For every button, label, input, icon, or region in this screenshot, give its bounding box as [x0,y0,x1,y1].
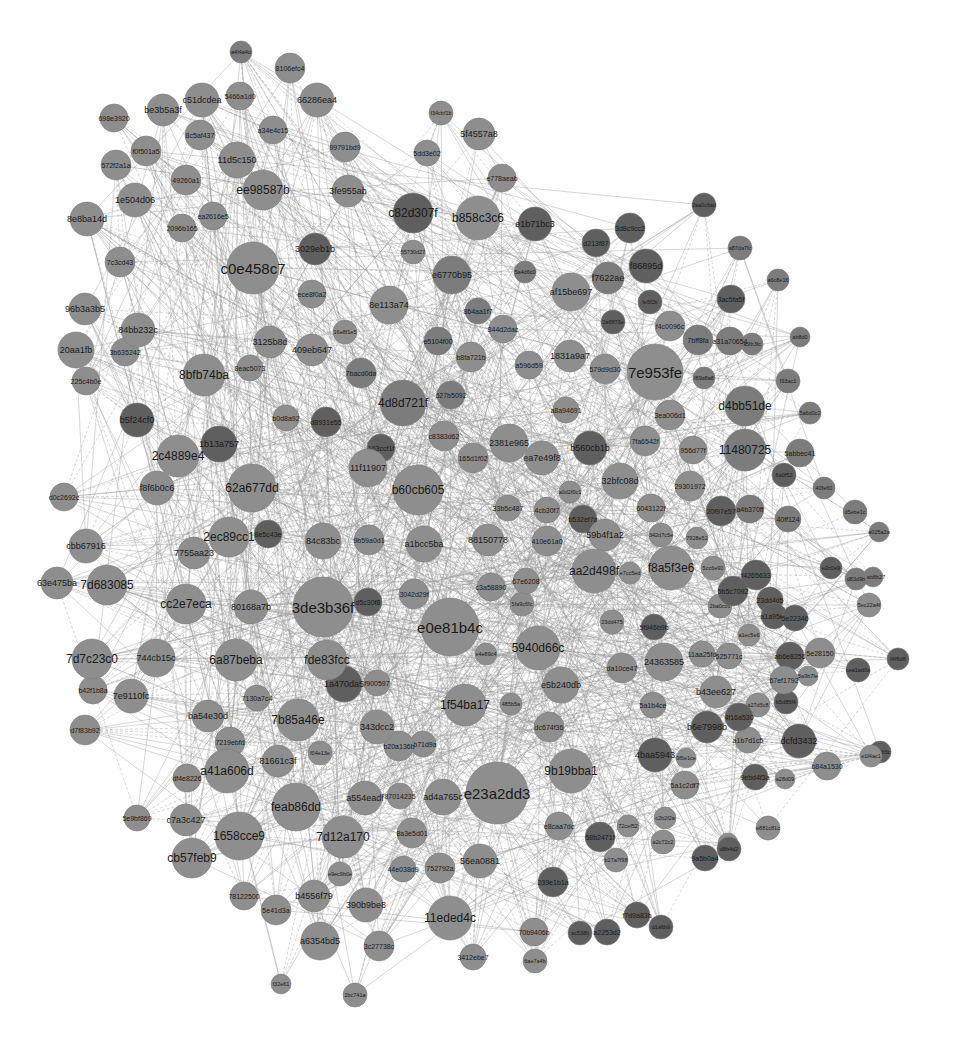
graph-node[interactable]: 55730d27 [401,240,425,264]
graph-node[interactable]: 5a1c2df7 [671,771,700,799]
graph-node[interactable]: a4b370ff [736,495,764,523]
graph-node[interactable]: f7622ae [592,262,625,294]
graph-node[interactable]: df4e8226 [172,764,201,792]
graph-node[interactable]: 1e504d06 [115,183,155,217]
graph-node[interactable]: 23dd475 [600,610,624,634]
graph-node[interactable]: cb57feb9 [167,838,217,878]
graph-node[interactable]: 11eded4c [424,896,476,940]
graph-node[interactable]: 5a1b4ce [640,692,667,718]
graph-node[interactable]: d1a6b9 [649,915,673,939]
graph-node[interactable]: e2c0e9 [820,557,842,579]
graph-node[interactable]: a1ec5e6 [738,624,760,646]
graph-node[interactable]: 8106efc4 [275,53,305,83]
graph-node[interactable]: 579d9d30 [589,354,620,384]
graph-node[interactable]: 9f5e1ce [676,748,696,768]
graph-node[interactable]: 5e9bf869 [122,805,151,831]
graph-node[interactable]: 7928e52 [686,527,708,549]
graph-node[interactable]: 5e22346 [781,605,808,631]
graph-node[interactable]: f86895d [629,249,663,283]
graph-node[interactable]: e5104f00 [423,327,452,355]
graph-node[interactable]: 3412ebe7 [457,944,488,970]
graph-node[interactable]: 7e9110fc [113,679,150,713]
graph-node[interactable]: be3b5a3f [144,94,182,126]
graph-node[interactable]: 343dcc2 [360,710,394,744]
graph-node[interactable]: a34e4c15 [258,116,289,144]
graph-node[interactable]: 5f4557a8 [460,118,498,150]
graph-node[interactable]: fe5f2b [638,290,662,314]
graph-node[interactable]: 8e5c43e [254,520,282,548]
graph-node[interactable]: 6a0f52 [772,463,796,487]
graph-node[interactable]: 7bff8fa [683,325,713,355]
graph-node[interactable]: 572f2a1a [101,150,131,180]
graph-node[interactable]: 5466a1d0 [224,82,255,110]
graph-node[interactable]: f04e13e [308,741,332,765]
graph-node[interactable]: 8e8ba14d [67,202,107,236]
graph-node[interactable]: 2aa0c6ad [692,193,716,217]
graph-node[interactable]: 2af0f73e [601,310,625,334]
graph-node[interactable]: b27a7f98 [604,848,628,872]
graph-node[interactable]: 96b3a3b5 [65,293,105,325]
graph-node[interactable]: a2c72c2 [651,830,675,854]
graph-node[interactable]: f34cbf1b [429,101,453,125]
graph-node[interactable]: b5f24cf0 [120,403,155,437]
graph-node[interactable]: cbb67916 [66,529,106,563]
graph-node[interactable]: 70b9406b [518,918,549,946]
graph-node[interactable]: 5b5c7092 [718,576,749,606]
graph-node[interactable]: 485b5a [500,693,522,715]
graph-node[interactable]: 5cc6e90 [701,556,725,580]
graph-node[interactable]: 67ef1792 [769,666,798,694]
graph-node[interactable]: d5ebe1c [843,500,867,524]
graph-node[interactable]: 72cef52 [617,815,639,837]
graph-node[interactable]: f8f6b0c6 [140,471,175,505]
graph-node[interactable]: 49260a1 [171,165,201,195]
graph-node[interactable]: 3042d29f [399,579,429,609]
graph-node[interactable]: c2b2f2a [654,807,676,829]
graph-node[interactable]: 99791bd9 [329,132,360,162]
graph-node[interactable]: 66286ea4 [297,83,337,117]
graph-node[interactable]: f89a8a8 [693,367,715,389]
graph-node[interactable]: 3c27738c [364,931,395,961]
graph-node[interactable]: 5a9b7fe [798,666,818,686]
graph-node[interactable]: 5dd3e02 [413,140,440,166]
graph-node[interactable]: a6354bd5 [300,922,340,960]
graph-node[interactable]: 16e8f1e5 [333,320,357,344]
graph-node[interactable]: c8383d62 [429,421,460,451]
graph-node[interactable]: 7bacd0da [346,358,377,388]
graph-node[interactable]: dc674f36 [534,712,564,742]
graph-node[interactable]: f32e61 [271,974,291,994]
graph-node[interactable]: 7e953fe [627,344,683,400]
graph-node[interactable]: 8e113a74 [369,286,408,324]
graph-node[interactable]: 410e61a0 [531,526,562,556]
graph-node[interactable]: 6ae7a4b [523,949,547,973]
graph-node[interactable]: d213f87 [582,229,610,257]
graph-node[interactable]: a4f4a4d [230,41,252,63]
graph-node[interactable]: e4e89c4 [475,643,497,665]
graph-node[interactable]: a2253d2 [593,919,620,945]
graph-node[interactable]: e881c81c [756,816,780,840]
graph-node[interactable]: a31a70654 [712,327,747,355]
graph-node[interactable]: f93ac1 [776,369,800,393]
graph-node[interactable]: 40ff124 [775,506,801,532]
graph-node[interactable]: 29301972 [674,471,705,501]
graph-node[interactable]: 9ebd4f3a [740,764,769,790]
graph-node[interactable]: 7c3cd43 [105,247,135,277]
graph-node[interactable]: 9b59a0d1 [353,525,384,555]
graph-node[interactable]: f4c0096c [655,311,685,341]
graph-node[interactable]: 5e41d3a [261,895,291,925]
graph-node[interactable]: e9ec9b0e [328,862,352,886]
graph-node[interactable]: b42f1b8a [78,676,107,704]
graph-node[interactable]: 5a6d0c2 [799,402,821,424]
graph-node[interactable]: a0d2f0c1 [559,481,582,503]
graph-node[interactable]: a596d59 [515,351,543,379]
graph-node[interactable]: ab8d0 [790,327,810,347]
graph-node[interactable]: b8fa721b [456,342,486,372]
graph-node[interactable]: d0c2692c [49,483,80,511]
graph-node[interactable]: f4f8d8 [887,648,909,670]
graph-node[interactable]: c51dcdea [182,83,221,117]
graph-node[interactable]: 3ea006d1 [654,400,685,430]
graph-node[interactable]: 3d8c9cc2 [615,213,645,243]
graph-node[interactable]: 9a5b0a4 [691,845,718,871]
graph-node[interactable]: 956d77f [679,436,707,464]
graph-node[interactable]: d8931e55 [310,407,341,437]
graph-node[interactable]: cea1ad0a [846,658,871,682]
